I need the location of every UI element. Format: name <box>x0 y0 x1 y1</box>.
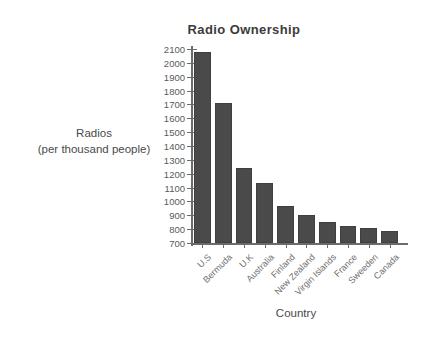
bar <box>215 103 232 243</box>
y-axis-tick-label: 1000 <box>164 197 185 206</box>
x-axis-tick <box>202 243 203 248</box>
plot-area: 2100200019001800170016001500140013001200… <box>192 49 400 243</box>
x-axis-tick <box>306 243 307 248</box>
y-axis-tick-label: 1200 <box>164 169 185 178</box>
bar <box>298 215 315 243</box>
y-axis-tick-label: 1300 <box>164 155 185 164</box>
y-axis-tick-label: 800 <box>169 225 185 234</box>
y-axis-tick-label: 1400 <box>164 142 185 151</box>
bar <box>194 52 211 243</box>
bar <box>319 222 336 243</box>
y-axis-title-line2: (per thousand people) <box>14 141 174 157</box>
chart-title: Radio Ownership <box>0 22 432 37</box>
y-axis-tick-label: 1500 <box>164 128 185 137</box>
x-axis-tick <box>369 243 370 248</box>
y-axis-tick-label: 1100 <box>165 183 185 192</box>
y-axis-tick-label: 900 <box>169 211 185 220</box>
y-axis-tick <box>187 49 197 50</box>
x-axis-tick <box>327 243 328 248</box>
bar <box>236 168 253 243</box>
bar <box>381 231 398 243</box>
bar <box>340 226 357 243</box>
y-axis-tick-label: 2100 <box>164 45 185 54</box>
x-axis-tick <box>348 243 349 248</box>
x-axis-tick <box>244 243 245 248</box>
x-axis-tick <box>286 243 287 248</box>
y-axis-tick-label: 1900 <box>164 72 185 81</box>
y-axis-tick-label: 1700 <box>164 100 185 109</box>
y-axis-title-line1: Radios <box>14 125 174 141</box>
bar-chart-figure: Radio Ownership Radios (per thousand peo… <box>0 0 432 350</box>
bar <box>256 183 273 243</box>
x-axis-tick <box>265 243 266 248</box>
y-axis-tick-label: 700 <box>169 239 185 248</box>
x-axis-title: Country <box>192 307 400 319</box>
bar <box>360 228 377 243</box>
y-axis-tick <box>187 243 197 244</box>
y-axis-tick-label: 1800 <box>164 86 185 95</box>
bar <box>277 206 294 243</box>
y-axis-title: Radios (per thousand people) <box>14 125 174 157</box>
x-axis-tick <box>390 243 391 248</box>
y-axis-tick-label: 1600 <box>164 114 185 123</box>
x-axis-tick <box>223 243 224 248</box>
y-axis-tick-label: 2000 <box>164 58 185 67</box>
